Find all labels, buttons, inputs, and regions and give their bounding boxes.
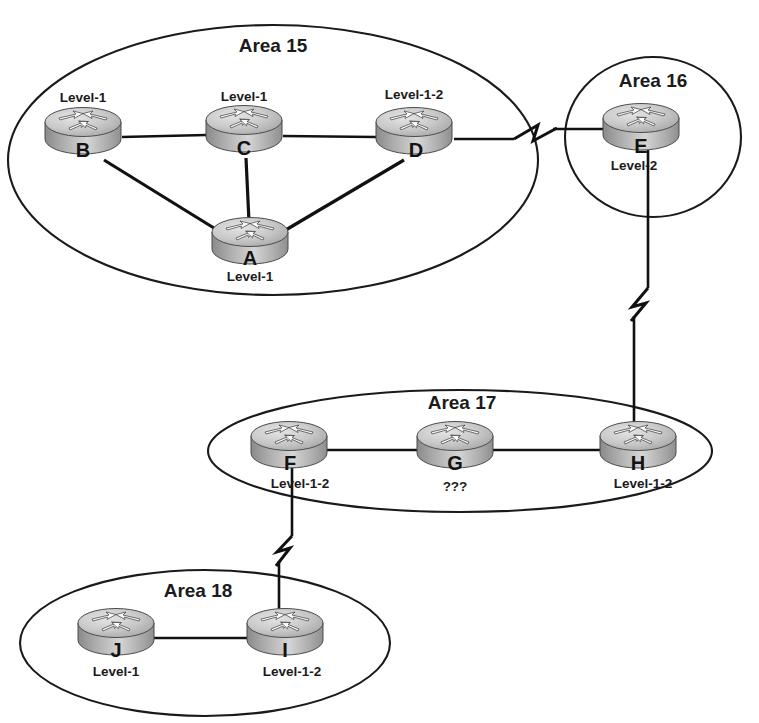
router-letter-h: H xyxy=(631,452,645,474)
link-d-e xyxy=(454,125,604,141)
link-b-a xyxy=(104,160,222,233)
router-level-d: Level-1-2 xyxy=(385,87,444,102)
area-label-area-16: Area 16 xyxy=(619,70,688,91)
link-c-a xyxy=(246,158,249,222)
router-level-labels: Level-1 Level-1 Level-1-2 Level-1 Level-… xyxy=(60,87,673,679)
router-level-a: Level-1 xyxy=(227,269,274,284)
router-letter-f: F xyxy=(284,452,296,474)
diagram-canvas: B C D A E F G H J I Level-1 Level-1 Leve… xyxy=(0,0,759,723)
link-b-c xyxy=(122,135,206,137)
router-letter-e: E xyxy=(634,135,647,157)
network-diagram: B C D A E F G H J I Level-1 Level-1 Leve… xyxy=(0,0,759,723)
router-level-h: Level-1-2 xyxy=(614,476,673,491)
router-level-f: Level-1-2 xyxy=(271,476,330,491)
router-letter-c: C xyxy=(237,137,251,159)
router-level-c: Level-1 xyxy=(221,89,268,104)
router-letter-d: D xyxy=(409,139,423,161)
router-letter-a: A xyxy=(243,247,257,269)
router-level-g: ??? xyxy=(443,479,468,494)
link-c-d xyxy=(283,136,376,137)
link-e-h xyxy=(631,150,648,430)
router-letter-i: I xyxy=(282,639,288,661)
router-letter-j: J xyxy=(110,639,121,661)
router-level-e: Level-2 xyxy=(611,158,658,173)
links xyxy=(104,125,648,638)
link-d-e-zigzag-icon xyxy=(514,125,557,141)
link-d-a xyxy=(284,160,404,231)
router-letters: B C D A E F G H J I xyxy=(76,135,648,661)
router-letter-b: B xyxy=(76,139,90,161)
router-letter-g: G xyxy=(447,452,463,474)
router-level-b: Level-1 xyxy=(60,90,107,105)
area-label-area-15: Area 15 xyxy=(239,35,308,56)
area-label-area-18: Area 18 xyxy=(164,580,233,601)
router-level-j: Level-1 xyxy=(93,664,140,679)
area-label-area-17: Area 17 xyxy=(428,392,497,413)
router-level-i: Level-1-2 xyxy=(263,664,322,679)
